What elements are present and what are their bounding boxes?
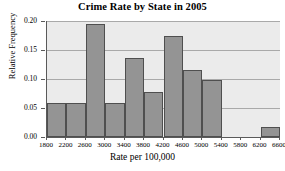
histogram-bar [183,70,202,137]
x-tick-mark [46,137,47,140]
y-tick-mark [41,50,45,51]
y-tick-label: 0.20 [24,17,37,25]
x-tick-mark [143,137,144,140]
x-tick-mark [124,137,125,140]
y-tick-mark [41,21,45,22]
plot-area [46,21,280,138]
y-tick-label: 0.15 [24,46,37,54]
histogram-bar [105,103,124,137]
y-tick-mark [41,79,45,80]
histogram-bar [66,103,85,137]
bar-series [47,21,280,137]
histogram-bar [47,103,66,137]
x-tick-mark [279,137,280,140]
x-axis-title: Rate per 100,000 [0,152,285,163]
histogram-bar [125,58,144,137]
histogram-bar [202,80,221,137]
x-tick-mark [104,137,105,140]
x-tick-label: 6600 [266,141,285,149]
histogram-bar [86,24,105,137]
x-tick-mark [85,137,86,140]
histogram-bar [164,36,183,138]
histogram-bar [261,127,280,137]
histogram-bar [144,92,163,137]
x-tick-mark [201,137,202,140]
y-tick-label: 0.10 [24,75,37,83]
x-tick-mark [221,137,222,140]
x-tick-mark [163,137,164,140]
y-tick-mark [41,108,45,109]
y-axis-ticks: 0.000.050.100.150.20 [0,0,46,140]
histogram-figure: Crime Rate by State in 2005 Relative Fre… [0,0,285,171]
x-tick-mark [65,137,66,140]
x-tick-mark [182,137,183,140]
x-tick-mark [240,137,241,140]
x-tick-mark [260,137,261,140]
y-tick-label: 0.05 [24,104,37,112]
